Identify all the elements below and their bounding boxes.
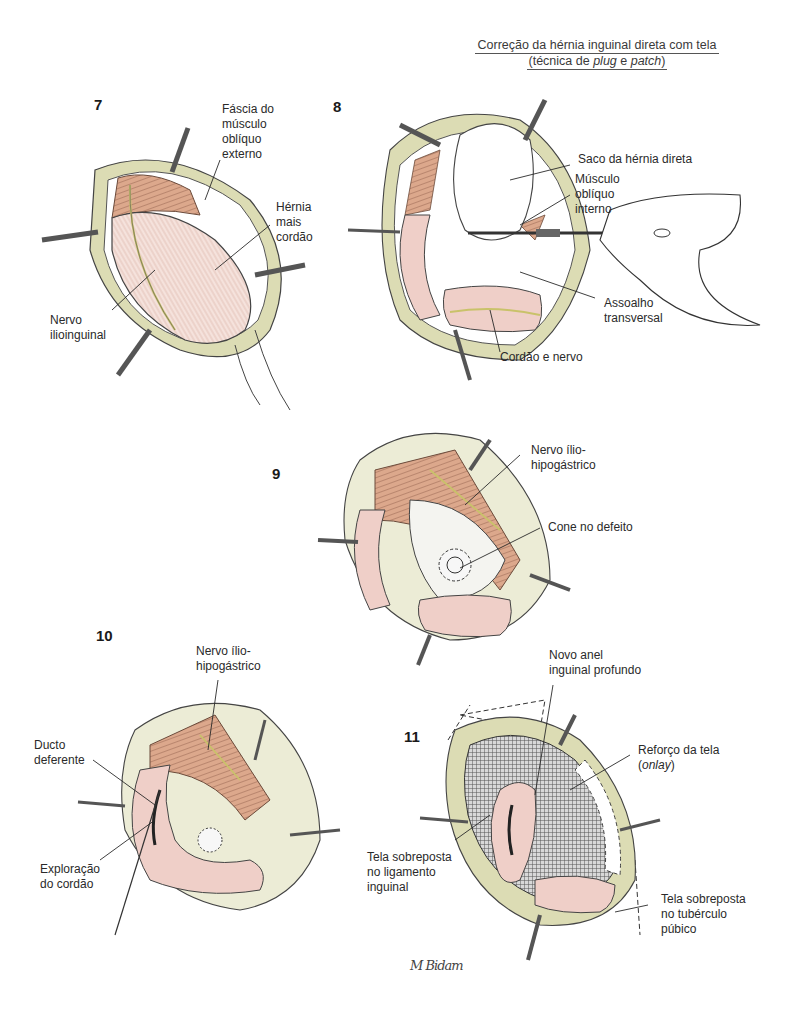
label-nervo-ilio-hipogastrico-10: Nervo ílio- hipogástrico [196, 644, 261, 674]
label-musculo-obliquo-interno: Músculo oblíquo interno [575, 172, 620, 217]
label-tela-tuberculo-pubico: Tela sobreposta no tubérculo púbico [661, 892, 746, 937]
panel-8-drawing [348, 100, 760, 380]
label-reforco-da-tela: Reforço da tela(onlay) [638, 743, 719, 773]
panel-10-number: 10 [96, 627, 113, 644]
panel-10-drawing [78, 680, 340, 935]
label-nervo-ilioinguinal: Nervo ilioinguinal [50, 313, 106, 343]
panel-9-number: 9 [272, 465, 280, 482]
title-line-2: (técnica de plug e patch) [527, 54, 668, 70]
label-hernia-mais-cordao: Hérnia mais cordão [276, 200, 313, 245]
label-exploracao-do-cordao: Exploração do cordão [40, 862, 100, 892]
figure-title: Correção da hérnia inguinal direta com t… [452, 38, 742, 70]
panel-11-drawing [420, 685, 660, 960]
title-line-1: Correção da hérnia inguinal direta com t… [475, 38, 718, 54]
artist-signature: M Bidam [410, 958, 463, 973]
panel-11-number: 11 [404, 728, 420, 745]
label-novo-anel-inguinal-profundo: Novo anel inguinal profundo [549, 648, 641, 678]
panel-7-number: 7 [94, 96, 102, 113]
label-ducto-deferente: Ducto deferente [34, 738, 85, 768]
label-tela-ligamento-inguinal: Tela sobreposta no ligamento inguinal [367, 850, 452, 895]
label-fascia-obliquo-externo: Fáscia do músculo oblíquo externo [222, 102, 274, 162]
label-saco-hernia-direta: Saco da hérnia direta [578, 152, 692, 167]
label-cordao-e-nervo: Cordão e nervo [500, 350, 583, 365]
panel-8-number: 8 [333, 98, 341, 115]
label-assoalho-transversal: Assoalho transversal [604, 296, 663, 326]
label-nervo-ilio-hipogastrico-9: Nervo ílio- hipogástrico [531, 443, 596, 473]
panel-7-drawing [42, 128, 305, 410]
label-cone-no-defeito: Cone no defeito [548, 520, 633, 535]
